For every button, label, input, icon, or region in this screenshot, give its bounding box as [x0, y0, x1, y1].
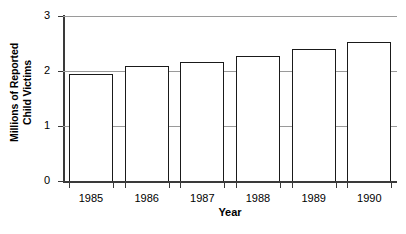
bar [347, 42, 391, 181]
y-axis-line [63, 15, 65, 182]
y-axis-title: Millions of Reported Child Victims [2, 0, 38, 185]
x-axis-tick [69, 182, 70, 188]
x-axis-tick [236, 182, 237, 188]
y-axis-tick [58, 71, 63, 72]
x-axis-tick-label: 1989 [291, 192, 337, 205]
x-axis-tick-label: 1986 [124, 192, 170, 205]
x-axis-tick [280, 182, 281, 188]
x-axis-tick-label: 1985 [68, 192, 114, 205]
x-axis-tick-label: 1987 [179, 192, 225, 205]
x-axis-tick-label: 1990 [346, 192, 392, 205]
bar [292, 49, 336, 181]
bar [236, 56, 280, 181]
y-axis-tick-label: 1 [20, 120, 50, 131]
bar [180, 62, 224, 181]
bar-chart-figure: Millions of Reported Child Victims 0123 … [0, 0, 406, 234]
x-axis-tick [125, 182, 126, 188]
x-axis-tick [347, 182, 348, 188]
x-axis-tick [113, 182, 114, 188]
y-axis-tick [58, 181, 63, 182]
x-axis-tick [336, 182, 337, 188]
x-axis-tick [292, 182, 293, 188]
gridline [63, 16, 397, 17]
bar [69, 74, 113, 181]
x-axis-title: Year [63, 206, 397, 219]
y-axis-title-line1: Millions of Reported [8, 43, 20, 142]
x-axis-tick [169, 182, 170, 188]
x-axis-tick [180, 182, 181, 188]
x-axis-tick-label: 1988 [235, 192, 281, 205]
x-axis-tick [391, 182, 392, 188]
y-axis-tick [58, 16, 63, 17]
x-axis-tick [224, 182, 225, 188]
y-axis-tick-label: 0 [20, 175, 50, 186]
y-axis-tick-label: 3 [20, 10, 50, 21]
plot-area: 0123 198519861987198819891990 [63, 16, 397, 181]
bar [125, 66, 169, 182]
y-axis-tick-label: 2 [20, 65, 50, 76]
y-axis-tick [58, 126, 63, 127]
